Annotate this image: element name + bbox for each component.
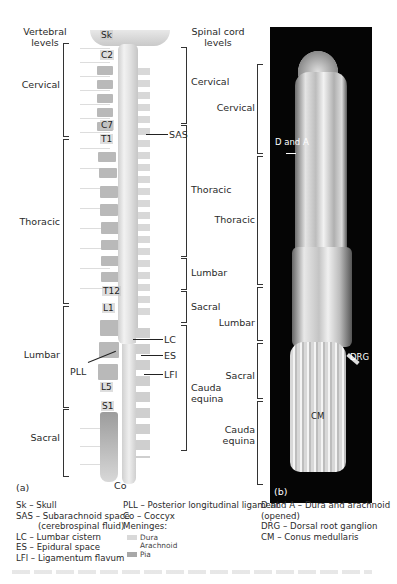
cord-level-thoracic: Thoracic bbox=[191, 184, 231, 195]
legend-column-2: PLL – Posterior longitudinal ligament Co… bbox=[123, 500, 280, 559]
bracket-vertebral-lumbar bbox=[63, 306, 69, 408]
b-level-sacral: Sacral bbox=[200, 370, 255, 381]
vertebral-level-cervical: Cervical bbox=[6, 79, 60, 90]
title-line: levels bbox=[188, 37, 248, 48]
pointer-line-d-and-a bbox=[286, 153, 296, 154]
title-line: Vertebral bbox=[20, 26, 70, 37]
legend-sas-note: (cerebrospinal fluid) bbox=[16, 521, 130, 532]
legend-lfl: LFl – Ligamentum flavum bbox=[16, 553, 130, 564]
bracket-b-cauda-equina bbox=[257, 401, 263, 485]
legend-co: Co – Coccyx bbox=[123, 511, 280, 522]
spinous-processes bbox=[138, 68, 150, 318]
photo-cord-upper bbox=[295, 72, 347, 252]
dura-swatch bbox=[127, 535, 137, 540]
photo-cord-middle bbox=[292, 247, 352, 347]
bracket-cord-cauda-equina bbox=[181, 325, 187, 451]
legend-column-3: D and A – Dura and arachnoid (opened) DR… bbox=[261, 500, 390, 542]
spine-illustration: Sk C2 C7 T1 T12 L1 L5 S1 Co bbox=[70, 28, 180, 498]
label-lc: LC bbox=[164, 334, 176, 345]
legend-meninges-title: Meninges: bbox=[123, 521, 280, 532]
legend-sas: SAS – Subarachnoid space bbox=[16, 511, 130, 522]
label-lfl: LFl bbox=[164, 369, 177, 380]
label-drg: DRG bbox=[350, 352, 369, 363]
b-level-cauda-equina: Cauda equina bbox=[220, 424, 255, 446]
spinal-cord-shape bbox=[118, 44, 138, 344]
tag-t12: T12 bbox=[102, 286, 121, 296]
cauda-equina-shape bbox=[122, 344, 136, 484]
legend-d-and-a-note: (opened) bbox=[261, 511, 390, 522]
panel-b-label: (b) bbox=[274, 486, 287, 497]
legend-drg: DRG – Dorsal root ganglion bbox=[261, 521, 390, 532]
pointer-line-sas bbox=[146, 134, 168, 135]
pointer-line-lfl bbox=[144, 374, 163, 375]
tag-l5: L5 bbox=[100, 382, 113, 392]
pointer-line-lc bbox=[133, 339, 163, 340]
tag-l1: L1 bbox=[102, 303, 115, 313]
b-level-lumbar: Lumbar bbox=[200, 317, 255, 328]
vertebral-level-thoracic: Thoracic bbox=[6, 216, 60, 227]
label-d-and-a: D and A bbox=[275, 137, 309, 147]
b-level-cervical: Cervical bbox=[200, 102, 255, 113]
bracket-vertebral-thoracic bbox=[63, 139, 69, 304]
pia-swatch bbox=[127, 552, 137, 557]
bracket-cord-lumbar bbox=[181, 258, 187, 290]
arachnoid-swatch bbox=[127, 544, 137, 549]
legend-pll: PLL – Posterior longitudinal ligament bbox=[123, 500, 280, 511]
bracket-b-lumbar bbox=[257, 287, 263, 341]
vertebral-level-lumbar: Lumbar bbox=[6, 349, 60, 360]
cord-level-cervical: Cervical bbox=[191, 76, 229, 87]
legend-lc: LC – Lumbar cistern bbox=[16, 532, 130, 543]
lumbar-processes bbox=[136, 328, 150, 458]
tag-c7: C7 bbox=[100, 120, 114, 130]
cord-level-cauda-equina: Cauda equina bbox=[191, 382, 231, 404]
dissection-photo: D and A DRG CM (b) bbox=[270, 27, 372, 503]
tag-c2: C2 bbox=[100, 50, 114, 60]
bracket-b-sacral bbox=[257, 343, 263, 399]
label-cm: CM bbox=[311, 411, 324, 422]
legend-column-1: Sk – Skull SAS – Subarachnoid space (cer… bbox=[16, 500, 130, 564]
vertebral-level-sacral: Sacral bbox=[6, 432, 60, 443]
label-es: ES bbox=[164, 350, 176, 361]
spinal-cord-levels-title: Spinal cord levels bbox=[188, 26, 248, 48]
pia-label: Pia bbox=[140, 550, 151, 559]
cord-level-sacral: Sacral bbox=[191, 301, 220, 312]
legend-d-and-a: D and A – Dura and arachnoid bbox=[261, 500, 390, 511]
bracket-b-cervical bbox=[257, 64, 263, 154]
bracket-cord-cervical bbox=[181, 47, 187, 124]
tag-t1: T1 bbox=[100, 134, 113, 144]
photo-cauda-equina bbox=[290, 342, 346, 472]
meninges-swatches: Dura Arachnoid Pia bbox=[123, 534, 280, 560]
panel-a-label: (a) bbox=[16, 482, 29, 493]
label-pll: PLL bbox=[70, 366, 86, 377]
tag-s1: S1 bbox=[101, 401, 114, 411]
legend-sk: Sk – Skull bbox=[16, 500, 130, 511]
bracket-vertebral-cervical bbox=[63, 43, 69, 137]
legend-cm: CM – Conus medullaris bbox=[261, 532, 390, 543]
bracket-cord-thoracic bbox=[181, 125, 187, 257]
title-line: Spinal cord bbox=[188, 26, 248, 37]
label-sas: SAS bbox=[169, 129, 188, 140]
bracket-cord-sacral bbox=[181, 291, 187, 323]
tag-sk: Sk bbox=[100, 30, 113, 40]
faint-caption-line bbox=[12, 570, 372, 574]
legend-es: ES – Epidural space bbox=[16, 542, 130, 553]
cord-level-lumbar: Lumbar bbox=[191, 267, 227, 278]
bracket-b-thoracic bbox=[257, 156, 263, 285]
b-level-thoracic: Thoracic bbox=[200, 214, 255, 225]
tag-co: Co bbox=[114, 480, 126, 491]
bracket-vertebral-sacral bbox=[63, 409, 69, 477]
meninges-pia: Pia bbox=[127, 551, 280, 560]
pointer-line-es bbox=[141, 355, 163, 356]
